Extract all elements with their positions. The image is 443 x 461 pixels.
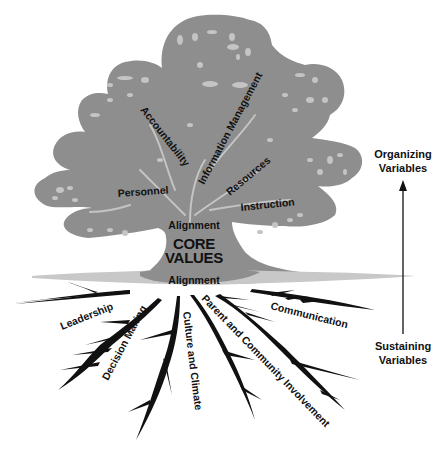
label-leadership: Leadership bbox=[58, 300, 114, 332]
arrowhead-icon bbox=[399, 180, 407, 191]
tree-diagram: Accountability Information Management Pe… bbox=[0, 0, 443, 461]
ground-line bbox=[32, 268, 415, 285]
axis-top-line2: Variables bbox=[379, 162, 427, 174]
variables-axis: Organizing Variables Sustaining Variable… bbox=[374, 148, 431, 366]
label-values: VALUES bbox=[165, 249, 223, 266]
label-alignment-top: Alignment bbox=[168, 219, 220, 231]
axis-top-line1: Organizing bbox=[374, 148, 431, 160]
axis-bottom-line1: Sustaining bbox=[375, 340, 431, 352]
root-communication bbox=[250, 289, 375, 310]
label-alignment-bottom: Alignment bbox=[168, 274, 220, 286]
axis-bottom-line2: Variables bbox=[379, 354, 427, 366]
label-culture-climate: Culture and Climate bbox=[181, 311, 205, 411]
